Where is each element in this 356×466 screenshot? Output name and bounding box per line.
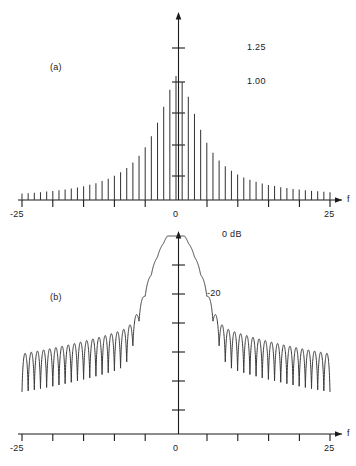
- panel-b-tag: (b): [50, 292, 62, 302]
- panel-b-xtick-label-min: -25: [10, 443, 24, 453]
- panel-a-y-arrow: [176, 12, 182, 20]
- panel-b-ytick-label-minus20: -20: [207, 288, 221, 298]
- panel-b-x-arrow: [335, 431, 342, 437]
- panel-a-x-arrow: [335, 197, 342, 203]
- panel-a-tag: (a): [50, 62, 62, 72]
- panel-a-ytick-label-125: 1.25: [247, 42, 266, 52]
- panel-a-xtick-label-min: -25: [10, 209, 24, 219]
- panel-a-xtick-label-zero: 0: [173, 209, 178, 219]
- panel-a-xtick-label-max: 25: [324, 209, 335, 219]
- panel-b-curve: [22, 236, 330, 392]
- panel-b-xtick-label-zero: 0: [173, 443, 178, 453]
- panel-b-xtick-label-max: 25: [324, 443, 335, 453]
- panel-b: [18, 231, 342, 441]
- panel-b-x-ticks: [22, 434, 330, 441]
- panel-b-x-axis-label: f: [347, 428, 350, 438]
- figure-container: (a) 1.25 1.00 -25 0 25 f (b) 0 dB -20 -2…: [0, 0, 356, 466]
- panel-b-ytick-label-0db: 0 dB: [222, 229, 242, 239]
- panel-a-x-axis-label: f: [347, 194, 350, 204]
- panel-a-stems: [22, 76, 330, 200]
- panel-a: [18, 12, 342, 207]
- panel-a-x-ticks: [22, 200, 330, 207]
- panel-b-y-arrow: [176, 231, 182, 239]
- panel-a-ytick-label-100: 1.00: [247, 76, 266, 86]
